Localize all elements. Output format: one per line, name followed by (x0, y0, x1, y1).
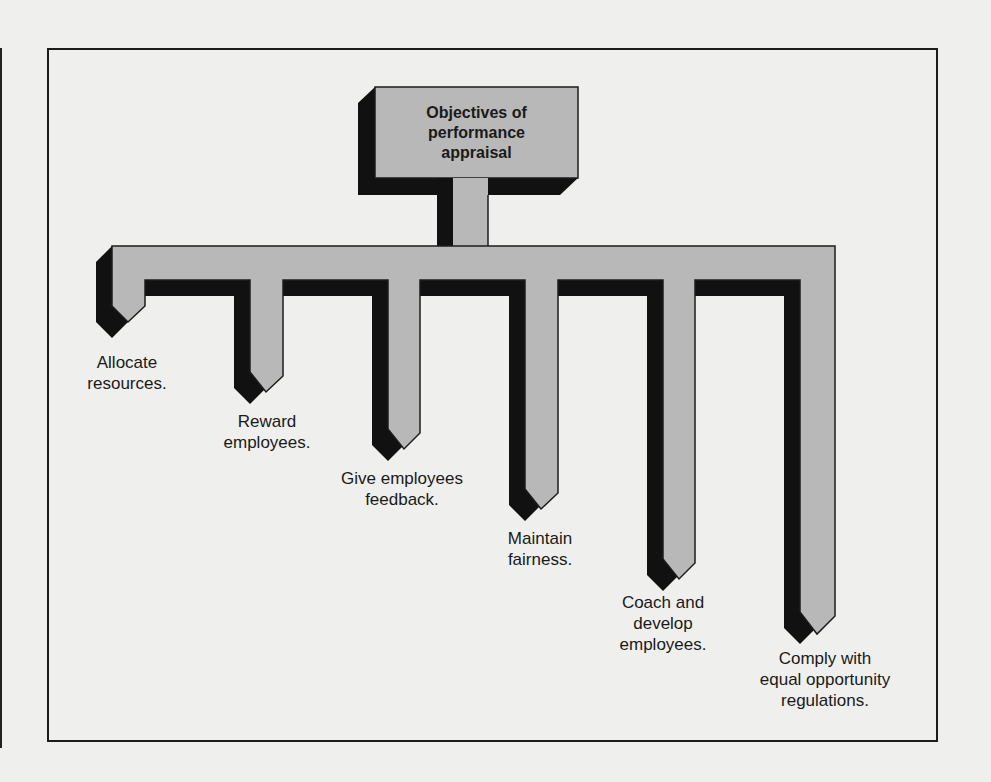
stem-shadow (437, 178, 454, 248)
branch-label-maintain-fairness: Maintain fairness. (475, 528, 605, 570)
branch-label-give-feedback: Give employees feedback. (312, 468, 492, 510)
branch-label-coach-develop: Coach and develop employees. (598, 592, 728, 655)
stem (453, 178, 488, 248)
branch-label-reward-employees: Reward employees. (202, 411, 332, 453)
branch-label-comply-eeo: Comply with equal opportunity regulation… (735, 648, 915, 711)
title-box-label: Objectives of performance appraisal (375, 87, 578, 178)
branch-label-allocate-resources: Allocate resources. (62, 352, 192, 394)
